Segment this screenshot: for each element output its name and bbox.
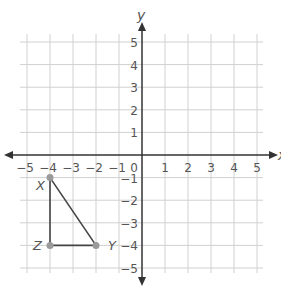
x-tick-label: 3 bbox=[207, 161, 215, 175]
x-tick-label: 2 bbox=[184, 161, 192, 175]
point-label-z: Z bbox=[32, 238, 43, 253]
x-tick-label: −4 bbox=[39, 161, 57, 175]
y-tick-label: 1 bbox=[130, 126, 138, 140]
point-label-y: Y bbox=[108, 238, 117, 253]
x-tick-label: −3 bbox=[62, 161, 80, 175]
y-tick-label: 2 bbox=[130, 104, 138, 118]
y-tick-label: −5 bbox=[120, 262, 138, 276]
y-tick-label: 5 bbox=[130, 36, 138, 50]
y-tick-label: −3 bbox=[120, 217, 138, 231]
x-axis-right-arrow-icon bbox=[269, 151, 278, 159]
x-axis-label: x bbox=[277, 147, 281, 163]
x-axis-left-arrow-icon bbox=[4, 151, 13, 159]
point-x bbox=[47, 174, 54, 181]
tick-labels: −5−4−3−2−112345054321−1−2−3−4−5 bbox=[16, 36, 261, 276]
point-label-x: X bbox=[35, 178, 46, 193]
x-tick-label: 5 bbox=[253, 161, 261, 175]
y-axis-down-arrow-icon bbox=[138, 277, 146, 286]
x-tick-label: −5 bbox=[16, 161, 34, 175]
y-tick-label: −2 bbox=[120, 194, 138, 208]
coordinate-plane: y x −5−4−3−2−112345054321−1−2−3−4−5 XYZ bbox=[0, 0, 281, 289]
x-tick-label: 1 bbox=[161, 161, 169, 175]
y-tick-label: 3 bbox=[130, 81, 138, 95]
x-tick-label: −2 bbox=[85, 161, 103, 175]
axes: y x bbox=[4, 7, 281, 286]
y-axis-up-arrow-icon bbox=[138, 22, 146, 31]
y-tick-label: −4 bbox=[120, 239, 138, 253]
x-tick-label: 4 bbox=[230, 161, 238, 175]
y-tick-label: −1 bbox=[120, 172, 138, 186]
y-tick-label: 4 bbox=[130, 59, 138, 73]
point-y bbox=[93, 242, 100, 249]
point-z bbox=[47, 242, 54, 249]
y-axis-label: y bbox=[136, 7, 146, 23]
triangle-xyz: XYZ bbox=[32, 174, 117, 253]
